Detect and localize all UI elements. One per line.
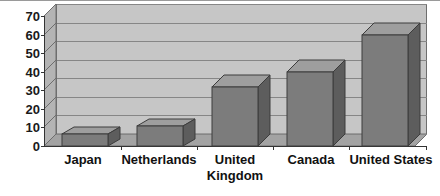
grid-connector-30 bbox=[44, 78, 57, 91]
x-tick-3 bbox=[349, 146, 350, 150]
x-axis-label-japan: Japan bbox=[45, 152, 121, 168]
y-tick-20 bbox=[41, 109, 45, 110]
y-tick-10 bbox=[41, 127, 45, 128]
chart-frame-line bbox=[0, 0, 440, 1]
bar-united-states[interactable] bbox=[362, 23, 422, 147]
y-axis-label-50: 50 bbox=[4, 47, 40, 60]
bar-united-kingdom[interactable] bbox=[212, 75, 272, 147]
bar-chart: 70 60 50 40 30 20 10 0 bbox=[0, 0, 440, 196]
bar-netherlands[interactable] bbox=[137, 119, 197, 147]
x-tick-2 bbox=[273, 146, 274, 150]
bar-canada[interactable] bbox=[287, 60, 347, 147]
grid-connector-50 bbox=[44, 41, 57, 54]
x-tick-0 bbox=[121, 146, 122, 150]
gridline-70 bbox=[57, 4, 427, 5]
y-axis-label-40: 40 bbox=[4, 66, 40, 79]
grid-connector-20 bbox=[44, 97, 57, 110]
x-axis-label-united-kingdom: United Kingdom bbox=[197, 152, 273, 184]
y-tick-50 bbox=[41, 53, 45, 54]
y-tick-0 bbox=[41, 146, 45, 147]
x-axis-label-united-states: United States bbox=[343, 152, 439, 168]
y-axis-label-10: 10 bbox=[4, 121, 40, 134]
x-tick-4 bbox=[426, 146, 427, 150]
x-axis-label-netherlands: Netherlands bbox=[121, 152, 197, 168]
y-axis-label-0: 0 bbox=[4, 140, 40, 153]
y-tick-30 bbox=[41, 90, 45, 91]
y-axis-label-30: 30 bbox=[4, 84, 40, 97]
y-axis-label-20: 20 bbox=[4, 103, 40, 116]
y-axis-label-70: 70 bbox=[4, 10, 40, 23]
bar-japan[interactable] bbox=[62, 127, 122, 147]
grid-connector-40 bbox=[44, 60, 57, 73]
grid-connector-70 bbox=[44, 4, 57, 17]
y-tick-40 bbox=[41, 72, 45, 73]
x-tick-1 bbox=[197, 146, 198, 150]
grid-connector-60 bbox=[44, 23, 57, 36]
grid-connector-10 bbox=[44, 115, 57, 128]
y-tick-70 bbox=[41, 16, 45, 17]
x-axis-label-canada: Canada bbox=[273, 152, 349, 168]
y-axis-label-60: 60 bbox=[4, 29, 40, 42]
y-tick-60 bbox=[41, 35, 45, 36]
